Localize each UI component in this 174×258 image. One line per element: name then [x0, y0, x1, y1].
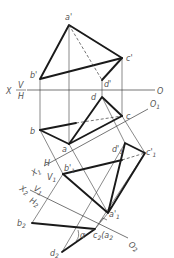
top-view	[40, 97, 122, 144]
label-c-front: c'	[126, 54, 133, 63]
label-d-top: d	[91, 93, 97, 102]
axis-x1-upper: H	[44, 159, 50, 168]
label-c-top: c	[126, 112, 131, 121]
label-b-top: b	[30, 127, 35, 136]
connector-a-h2	[95, 213, 108, 229]
label-d-v1: d'1	[112, 145, 123, 155]
edge-v1-main	[63, 143, 145, 213]
edge-top-ac	[69, 116, 122, 144]
front-view	[40, 25, 122, 80]
axis-x-upper: V	[18, 81, 24, 90]
connector-a-v1	[69, 144, 108, 213]
angle-alpha-label: α	[80, 231, 86, 240]
axis-x-lower: H	[18, 92, 24, 101]
edge-h2-bcd	[32, 223, 95, 252]
axis-x1	[44, 109, 148, 166]
label-a-top: a	[62, 145, 67, 154]
label-b-h2: b2	[17, 219, 26, 229]
axis-x2-lower: H2	[28, 196, 42, 210]
projection-diagram: X V H O a' b' c' d' d c b a O1 H X1 V1 b…	[0, 0, 174, 258]
axis-x1-lower: V1	[47, 173, 56, 183]
label-c-a-h2: c2(a2	[93, 231, 113, 241]
axis-x2-label: X2	[17, 183, 31, 197]
axis-x-label: X	[5, 87, 12, 96]
label-a-front: a'	[65, 13, 72, 22]
label-c-v1: c'1	[146, 148, 156, 158]
angle-arc	[76, 230, 79, 241]
label-d-h2: d2	[50, 249, 59, 258]
label-a-v1: a'1	[109, 210, 120, 220]
label-d-front: d'	[104, 80, 111, 89]
edge-top-bc-visible	[40, 123, 76, 130]
axis-x1-origin: O1	[150, 100, 160, 110]
edge-front-ad-hidden	[69, 25, 102, 80]
axis-x2-upper: V1	[32, 184, 45, 197]
label-b-v1: b'1	[64, 164, 75, 174]
axis-x2-origin: O2	[127, 240, 141, 254]
axis-x1-label: X1	[29, 165, 43, 179]
axis-x-origin: O	[157, 87, 163, 96]
v1-view	[63, 143, 145, 213]
label-b-front: b'	[30, 71, 37, 80]
